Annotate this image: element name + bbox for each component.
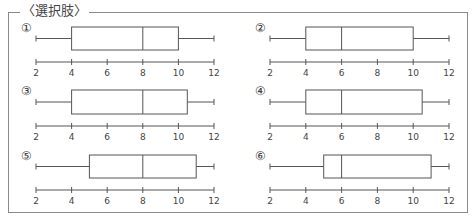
tick-label: 2	[267, 196, 273, 206]
tick-label: 6	[339, 68, 345, 78]
choice-label: ⑤	[21, 149, 32, 163]
tick-label: 10	[173, 196, 185, 206]
tick-label: 8	[375, 132, 381, 142]
tick-label: 4	[69, 196, 75, 206]
boxplot-2: ②24681012	[255, 21, 455, 78]
choice-label: ②	[255, 21, 266, 35]
tick-label: 2	[267, 68, 273, 78]
tick-label: 4	[69, 132, 75, 142]
choice-label: ⑥	[255, 149, 266, 163]
tick-label: 4	[303, 68, 309, 78]
tick-label: 6	[104, 132, 110, 142]
tick-label: 8	[375, 196, 381, 206]
choice-label: ③	[21, 84, 32, 98]
tick-label: 12	[443, 132, 454, 142]
tick-label: 12	[208, 132, 219, 142]
tick-label: 8	[140, 132, 146, 142]
tick-label: 12	[443, 68, 454, 78]
tick-label: 2	[33, 132, 39, 142]
tick-label: 2	[33, 68, 39, 78]
boxplot-1: ①24681012	[21, 21, 220, 78]
boxplot-6: ⑥24681012	[255, 149, 455, 206]
tick-label: 2	[33, 196, 39, 206]
boxplot-3: ③24681012	[21, 84, 220, 142]
tick-label: 8	[375, 68, 381, 78]
tick-label: 6	[104, 68, 110, 78]
tick-label: 8	[140, 68, 146, 78]
tick-label: 4	[303, 132, 309, 142]
boxplot-5: ⑤24681012	[21, 149, 220, 206]
tick-label: 10	[407, 68, 419, 78]
tick-label: 12	[208, 196, 219, 206]
tick-label: 2	[267, 132, 273, 142]
tick-label: 12	[208, 68, 219, 78]
tick-label: 8	[140, 196, 146, 206]
tick-label: 6	[339, 132, 345, 142]
tick-label: 4	[303, 196, 309, 206]
tick-label: 10	[173, 68, 185, 78]
choice-label: ①	[21, 21, 32, 35]
tick-label: 12	[443, 196, 454, 206]
tick-label: 6	[104, 196, 110, 206]
choice-label: ④	[255, 84, 266, 98]
tick-label: 6	[339, 196, 345, 206]
boxplot-4: ④24681012	[255, 84, 455, 142]
tick-label: 4	[69, 68, 75, 78]
tick-label: 10	[173, 132, 185, 142]
tick-label: 10	[407, 132, 419, 142]
boxplots: ①24681012②24681012③24681012④24681012⑤246…	[0, 0, 474, 218]
tick-label: 10	[407, 196, 419, 206]
